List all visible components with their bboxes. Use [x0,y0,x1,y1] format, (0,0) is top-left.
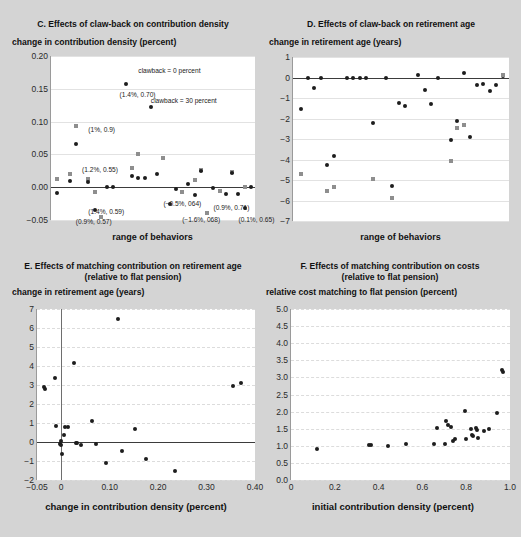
data-point-square [93,190,97,194]
x-tick-label: −0.05 [26,482,48,492]
data-point [476,436,480,440]
data-point [104,461,108,465]
data-point-circle [111,185,115,189]
gridline [51,56,255,57]
gridline [291,326,510,327]
data-point-circle [312,86,316,90]
data-point-circle [358,76,362,80]
data-point-circle [319,76,323,80]
data-point-square [243,185,247,189]
data-point [239,381,243,385]
gridline [291,309,510,310]
data-point [487,427,491,431]
data-point [315,447,319,451]
data-point-circle [332,154,336,158]
gridline [51,122,255,123]
panel-e-plot-area: 76543210−1−2−0.0500.100.200.300.40 [36,309,255,480]
y-tick-label: 0.00 [31,182,48,192]
gridline [37,480,255,481]
y-tick-label: 2.5 [276,390,288,400]
x-tick-label: 0 [59,482,64,492]
panel-c-plot-area: 0.200.150.100.050.00−0.05clawback = 0 pe… [50,56,255,220]
data-point [116,317,120,321]
data-point-square [449,159,453,163]
data-point [475,428,479,432]
data-point-circle [68,179,72,183]
y-tick-label: −6 [280,196,290,206]
gridline [291,395,510,396]
data-point-circle [136,176,140,180]
data-point-circle [351,76,355,80]
y-tick-label: 2 [29,399,34,409]
y-tick-label: 3.5 [276,355,288,365]
data-point-circle [143,176,147,180]
gridline [37,366,255,367]
data-point-square [55,177,59,181]
data-point-circle [462,71,466,75]
panel-d-x-axis-title: range of behaviors [292,232,509,242]
data-point-circle [86,180,90,184]
data-point-circle [384,76,388,80]
data-point-circle [211,186,215,190]
annotation-label: (−0.5%, 064) [163,200,201,208]
data-point-circle [105,185,109,189]
panel-e-title: E. Effects of matching contribution on r… [24,261,242,283]
data-point-square [371,177,375,181]
y-tick-label: −5 [280,175,290,185]
data-point-square [136,152,140,156]
data-point-circle [299,107,303,111]
y-tick-label: 0.05 [31,149,48,159]
gridline [51,154,255,155]
y-tick-label: 0.5 [276,458,288,468]
figure-panel-grid: C. Effects of claw-back on contribution … [0,0,521,537]
data-point-square [455,126,459,130]
y-tick-label: 0.20 [31,51,48,61]
data-point-circle [449,138,453,142]
annotation-label: (0.9%, 0.57) [76,218,112,226]
data-point-circle [230,171,234,175]
data-point [94,442,98,446]
data-point-circle [468,135,472,139]
y-tick-label: 7 [29,304,34,314]
gridline [291,480,510,481]
data-point-circle [364,76,368,80]
data-point-circle [55,191,59,195]
y-tick-label: 1 [285,52,290,62]
data-point-circle [397,101,401,105]
gridline [293,221,509,222]
gridline [37,404,255,405]
data-point [463,409,467,413]
data-point [66,425,70,429]
x-tick-label: 0.30 [198,482,215,492]
data-point [173,469,177,473]
data-point [464,437,468,441]
gridline [37,309,255,310]
gridline [293,201,509,202]
data-point-circle [494,83,498,87]
data-point [53,376,57,380]
panel-f: F. Effects of matching contribution on c… [259,258,521,537]
data-point [54,424,58,428]
gridline [293,139,509,140]
data-point-square [161,156,165,160]
data-point-square [193,178,197,182]
annotation-label: clawback = 0 percent [138,67,200,75]
data-point-circle [124,82,128,86]
data-point-circle [74,142,78,146]
data-point [62,433,66,437]
y-tick-label: 4.0 [276,338,288,348]
zero-axis-line [293,78,509,79]
panel-d-plot-area: 10−1−2−3−4−5−6−7 [292,57,509,221]
y-tick-label: 0 [29,437,34,447]
annotation-label: (0.9%, 0.71) [213,204,249,212]
x-tick-label: 0.4 [373,482,385,492]
data-point-circle [345,76,349,80]
data-point-square [205,211,209,215]
data-point-circle [416,73,420,77]
data-point-square [390,196,394,200]
data-point-square [332,185,336,189]
gridline [51,89,255,90]
data-point-circle [475,83,479,87]
data-point-circle [130,174,134,178]
data-point [471,434,475,438]
